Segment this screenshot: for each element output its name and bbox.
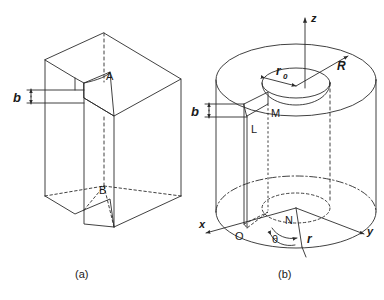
label-point-b: B: [99, 184, 106, 196]
label-gap-width-b: b: [191, 104, 199, 119]
prism-bottom-hidden-edges: [45, 186, 181, 196]
label-point-n: N: [285, 214, 293, 226]
technical-diagram-svg: A B b z x y O r 0 R L M N θ r b: [0, 0, 384, 300]
label-point-m: M: [271, 107, 280, 119]
label-inner-radius-subscript: 0: [283, 72, 288, 81]
r0-radius-arrow: [265, 78, 296, 86]
r-radius-line-ext: [302, 247, 306, 257]
label-axis-z: z: [310, 12, 317, 24]
caption-panel-b: (b): [278, 268, 291, 280]
label-gap-width-a: b: [13, 90, 21, 105]
cylinder-bottom-outer-back: [216, 176, 376, 212]
r-radius-line: [296, 208, 302, 247]
label-origin-o: O: [235, 230, 244, 242]
prism-bottom-slit: [84, 199, 114, 227]
label-inner-radius-group: r 0: [276, 64, 288, 81]
label-axis-x: x: [198, 218, 206, 230]
panel-a-geometry: [27, 33, 181, 227]
label-outer-radius: R: [337, 59, 346, 73]
x-axis-line: [206, 208, 296, 233]
bottom-slit-wedge: [244, 212, 268, 228]
label-point-a: A: [106, 70, 114, 82]
caption-panel-a: (a): [75, 268, 88, 280]
label-point-l: L: [251, 123, 257, 135]
label-angle-theta: θ: [272, 233, 278, 245]
annulus-slit: [244, 92, 268, 116]
label-radius-r: r: [307, 232, 313, 246]
label-inner-radius: r: [276, 64, 282, 78]
figure-container: A B b z x y O r 0 R L M N θ r b (a) (b): [0, 0, 384, 300]
label-axis-y: y: [366, 225, 374, 237]
y-axis-line: [296, 208, 364, 234]
